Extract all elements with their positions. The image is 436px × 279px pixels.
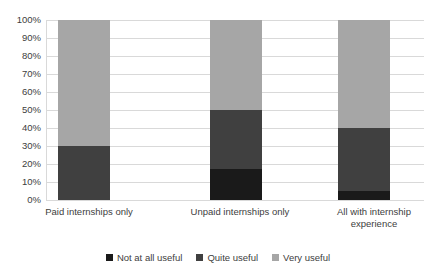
y-axis-tick-label: 90% xyxy=(22,32,41,43)
bar-paid-internships-only[interactable] xyxy=(58,20,110,200)
y-axis-tick-60: 60% xyxy=(0,87,41,97)
bar-segment-quite-useful[interactable] xyxy=(210,110,262,169)
y-axis-tick-30: 30% xyxy=(0,141,41,151)
y-axis-tick-20: 20% xyxy=(0,159,41,169)
chart-legend: Not at all useful Quite useful Very usef… xyxy=(0,252,436,263)
bar-segment-very-useful[interactable] xyxy=(210,20,262,110)
y-axis-tick-40: 40% xyxy=(0,123,41,133)
y-axis-tick-10: 10% xyxy=(0,177,41,187)
legend-item-label: Quite useful xyxy=(207,252,258,263)
legend-swatch-icon xyxy=(106,254,113,261)
x-axis-label-unpaid-internships-only: Unpaid internships only xyxy=(175,206,305,218)
y-axis-tick-80: 80% xyxy=(0,51,41,61)
gridline-0 xyxy=(46,200,424,201)
y-axis-tick-label: 40% xyxy=(22,122,41,133)
bar-segment-very-useful[interactable] xyxy=(338,20,390,128)
y-axis-tick-90: 90% xyxy=(0,33,41,43)
y-axis-tick-label: 0% xyxy=(27,194,41,205)
bar-segment-very-useful[interactable] xyxy=(58,20,110,146)
y-axis-tick-label: 20% xyxy=(22,158,41,169)
y-axis-tick-label: 10% xyxy=(22,176,41,187)
y-axis-tick-50: 50% xyxy=(0,105,41,115)
legend-item-label: Very useful xyxy=(283,252,330,263)
legend-item-label: Not at all useful xyxy=(117,252,182,263)
bar-segment-not-at-all-useful[interactable] xyxy=(338,191,390,200)
x-axis-label-paid-internships-only: Paid internships only xyxy=(24,206,154,218)
y-axis-tick-label: 30% xyxy=(22,140,41,151)
bar-all-with-internship-experience[interactable] xyxy=(338,20,390,200)
legend-item-very-useful[interactable]: Very useful xyxy=(272,252,330,263)
y-axis-tick-label: 50% xyxy=(22,104,41,115)
legend-swatch-icon xyxy=(196,254,203,261)
y-axis-tick-100: 100% xyxy=(0,15,41,25)
stacked-bar-chart: 100% 90% 80% 70% 60% 50% 40% 30% 20% 10%… xyxy=(0,0,436,279)
y-axis-tick-label: 70% xyxy=(22,68,41,79)
x-axis-label-all-with-internship-experience: All with internship experience xyxy=(319,206,429,230)
legend-swatch-icon xyxy=(272,254,279,261)
y-axis-tick-label: 60% xyxy=(22,86,41,97)
bar-segment-quite-useful[interactable] xyxy=(338,128,390,191)
y-axis-tick-0: 0% xyxy=(0,195,41,205)
legend-item-quite-useful[interactable]: Quite useful xyxy=(196,252,258,263)
y-axis-tick-70: 70% xyxy=(0,69,41,79)
legend-item-not-at-all-useful[interactable]: Not at all useful xyxy=(106,252,182,263)
bar-segment-quite-useful[interactable] xyxy=(58,146,110,200)
bar-segment-not-at-all-useful[interactable] xyxy=(210,169,262,200)
y-axis-tick-label: 100% xyxy=(17,14,41,25)
plot-area xyxy=(46,20,424,200)
bar-unpaid-internships-only[interactable] xyxy=(210,20,262,200)
y-axis-tick-label: 80% xyxy=(22,50,41,61)
